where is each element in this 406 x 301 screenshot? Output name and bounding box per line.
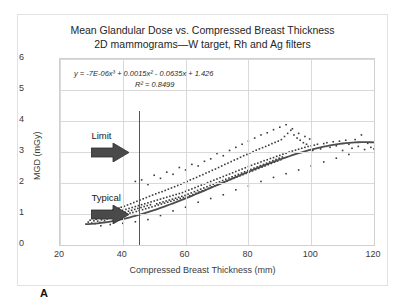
scatter-point (146, 197, 148, 199)
reference-line-vertical (139, 111, 141, 245)
scatter-point (140, 207, 142, 209)
scatter-point (270, 158, 272, 160)
scatter-point (230, 161, 232, 163)
x-axis-tick-label: 60 (170, 249, 200, 259)
scatter-point (149, 196, 151, 198)
scatter-point (161, 203, 163, 205)
scatter-point (271, 143, 273, 145)
gridline-vertical (311, 59, 312, 245)
scatter-point (222, 155, 224, 157)
scatter-point (179, 167, 181, 169)
scatter-point (134, 209, 136, 211)
scatter-point (206, 186, 208, 188)
scatter-point (136, 200, 138, 202)
scatter-point (370, 147, 372, 149)
scatter-point (146, 205, 148, 207)
scatter-point (132, 212, 134, 214)
scatter-point (131, 207, 133, 209)
scatter-point (279, 155, 281, 157)
scatter-point (87, 221, 89, 223)
scatter-point (142, 198, 144, 200)
scatter-point (233, 159, 235, 161)
scatter-point (197, 165, 199, 167)
y-axis-tick-label: 6 (0, 52, 24, 62)
scatter-point (172, 198, 174, 200)
scatter-point (135, 206, 137, 208)
scatter-point (273, 129, 275, 131)
scatter-point (298, 133, 300, 135)
scatter-point (232, 172, 234, 174)
scatter-point (181, 196, 183, 198)
scatter-point (243, 155, 245, 157)
scatter-point (179, 193, 181, 195)
scatter-point (221, 165, 223, 167)
scatter-point (158, 192, 160, 194)
scatter-point (219, 177, 221, 179)
scatter-point (348, 154, 350, 156)
y-axis-tick-label: 0 (0, 238, 24, 248)
scatter-point (190, 179, 192, 181)
scatter-point (254, 163, 256, 165)
scatter-point (182, 192, 184, 194)
scatter-point (301, 147, 303, 149)
scatter-point (193, 178, 195, 180)
x-axis-tick-label: 80 (232, 249, 262, 259)
panel-label: A (40, 287, 48, 299)
gridline-horizontal (60, 121, 374, 122)
scatter-point (241, 168, 243, 170)
y-axis-tick-label: 3 (0, 145, 24, 155)
scatter-point (155, 193, 157, 195)
gridline-horizontal (60, 245, 374, 246)
scatter-point (262, 147, 264, 149)
scatter-point (342, 150, 344, 152)
x-axis-tick-label: 120 (358, 249, 388, 259)
scatter-point (293, 134, 295, 136)
scatter-point (279, 126, 281, 128)
scatter-point (351, 147, 353, 149)
scatter-point (295, 149, 297, 151)
scatter-point (150, 201, 152, 203)
scatter-point (216, 178, 218, 180)
scatter-point (339, 140, 341, 142)
scatter-point (229, 173, 231, 175)
scatter-point (354, 139, 356, 141)
scatter-point (136, 211, 138, 213)
scatter-point (191, 188, 193, 190)
gridline-vertical (60, 59, 61, 245)
scatter-point (197, 201, 199, 203)
scatter-point (234, 175, 236, 177)
scatter-point (238, 169, 240, 171)
scatter-point (164, 190, 166, 192)
scatter-point (199, 175, 201, 177)
scatter-point (166, 171, 168, 173)
scatter-point (260, 181, 262, 183)
scatter-point (141, 179, 143, 181)
scatter-point (299, 139, 301, 141)
scatter-point (168, 199, 170, 201)
scatter-point (210, 181, 212, 183)
scatter-point (163, 197, 165, 199)
scatter-point (268, 144, 270, 146)
scatter-point (169, 196, 171, 198)
scatter-point (147, 219, 149, 221)
scatter-point (224, 164, 226, 166)
scatter-point (142, 209, 144, 211)
scatter-point (162, 201, 164, 203)
scatter-point (145, 208, 147, 210)
y-axis-tick-label: 5 (0, 83, 24, 93)
scatter-point (287, 133, 289, 135)
scatter-point (266, 132, 268, 134)
scatter-point (191, 164, 193, 166)
scatter-point (174, 186, 176, 188)
scatter-point (166, 196, 168, 198)
scatter-point (358, 146, 360, 148)
scatter-point (210, 198, 212, 200)
scatter-point (281, 139, 283, 141)
scatter-point (255, 149, 257, 151)
gridline-vertical (248, 59, 249, 245)
scatter-point (260, 134, 262, 136)
scatter-point (204, 161, 206, 163)
scatter-point (151, 206, 153, 208)
equation-text: y = -7E-06x³ + 0.0015x² - 0.0635x + 1.42… (74, 69, 213, 78)
scatter-point (274, 142, 276, 144)
